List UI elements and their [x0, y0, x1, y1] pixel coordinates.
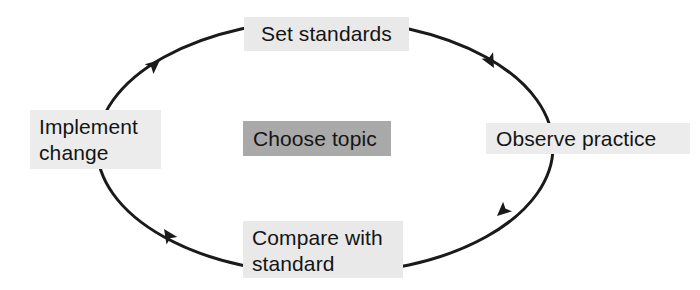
cycle-node-compare-with-standard[interactable]: Compare with standard: [243, 221, 403, 278]
audit-cycle-diagram: Set standards Observe practice Compare w…: [0, 0, 700, 290]
cycle-node-implement-change[interactable]: Implement change: [30, 110, 161, 169]
cycle-node-set-standards[interactable]: Set standards: [244, 17, 409, 51]
arrow-head-bottom-right-icon: [494, 202, 513, 222]
cycle-node-observe-practice[interactable]: Observe practice: [486, 123, 690, 154]
arrow-head-top-left-icon: [143, 54, 163, 74]
arrow-head-top-right-icon: [482, 51, 501, 71]
cycle-node-choose-topic[interactable]: Choose topic: [243, 121, 391, 156]
